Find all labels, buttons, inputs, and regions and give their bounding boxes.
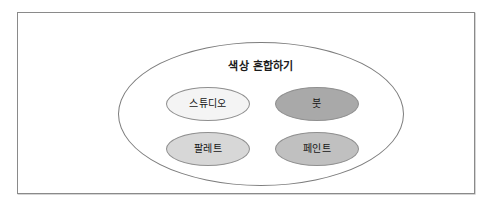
node-brush[interactable]: 붓 [275, 87, 359, 121]
node-brush-label: 붓 [312, 99, 321, 109]
node-studio[interactable]: 스튜디오 [166, 87, 250, 121]
node-paint-label: 페인트 [303, 144, 331, 154]
node-studio-label: 스튜디오 [189, 99, 226, 109]
diagram-title: 색상 혼합하기 [118, 57, 404, 73]
node-paint[interactable]: 페인트 [275, 132, 359, 166]
node-palette-label: 팔레트 [194, 144, 222, 154]
diagram-frame: 색상 혼합하기 스튜디오 붓 팔레트 페인트 [17, 12, 475, 194]
diagram-canvas: 색상 혼합하기 스튜디오 붓 팔레트 페인트 [0, 0, 492, 207]
node-palette[interactable]: 팔레트 [166, 132, 250, 166]
